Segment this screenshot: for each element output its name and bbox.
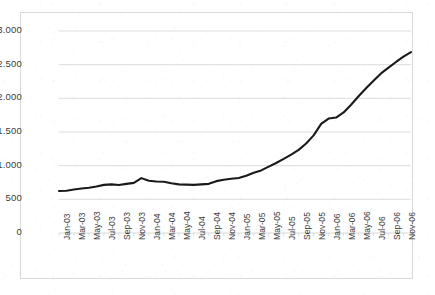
x-axis-tick-label: Sep-04	[212, 212, 222, 240]
x-axis-tick-label: Jul-05	[287, 216, 297, 240]
x-axis-tick-label: Mar-05	[257, 212, 267, 240]
x-axis-tick-label: Nov-03	[137, 212, 147, 240]
x-axis-tick-label: Jul-04	[197, 216, 207, 240]
x-axis-tick-label: Mar-03	[77, 212, 87, 240]
x-axis-tick-label: Jul-06	[377, 216, 387, 240]
x-axis-tick-label: Nov-04	[227, 212, 237, 240]
y-axis-tick-label: 2.000	[0, 91, 22, 102]
x-axis-tick-label: Sep-03	[122, 212, 132, 240]
x-axis-tick-label: Sep-05	[302, 212, 312, 240]
y-axis-tick-label: 3.000	[0, 24, 22, 35]
y-axis-tick-label: 1.500	[0, 125, 22, 136]
x-axis-tick-label: May-05	[272, 211, 282, 240]
x-axis-tick-label: Jan-06	[332, 213, 342, 240]
y-axis-tick-label: 500	[0, 192, 22, 203]
x-axis-tick-label: May-06	[362, 211, 372, 240]
x-axis-tick-label: Mar-06	[347, 212, 357, 240]
x-axis-tick-label: Jan-04	[152, 213, 162, 240]
y-axis-tick-label: 2.500	[0, 58, 22, 69]
x-axis-tick-label: Nov-06	[407, 212, 417, 240]
x-axis-tick-label: Jan-03	[62, 213, 72, 240]
x-axis-tick-label: Sep-06	[392, 212, 402, 240]
x-axis-tick-label: Jul-03	[107, 216, 117, 240]
x-axis-tick-label: Mar-04	[167, 212, 177, 240]
data-series-line	[59, 52, 411, 191]
x-axis-tick-label: May-04	[182, 211, 192, 240]
y-axis-tick-label: 0	[0, 226, 22, 237]
gridlines-group	[59, 31, 411, 233]
x-axis-tick-label: Jan-05	[242, 213, 252, 240]
y-axis-tick-label: 1.000	[0, 159, 22, 170]
x-axis-tick-label: Nov-05	[317, 212, 327, 240]
x-axis-tick-label: May-03	[92, 211, 102, 240]
